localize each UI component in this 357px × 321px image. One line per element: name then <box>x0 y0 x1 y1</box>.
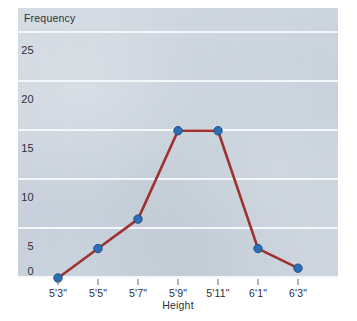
x-tick-label: 5'3" <box>49 287 67 299</box>
series-markers <box>54 127 302 283</box>
x-axis-title: Height <box>162 299 194 311</box>
x-tick-label: 5'11" <box>206 287 229 299</box>
x-tick-mark <box>98 279 99 285</box>
x-tick-mark <box>298 279 299 285</box>
x-tick-label: 5'5" <box>89 287 107 299</box>
x-tick-mark <box>138 279 139 285</box>
line-chart: Frequency 25 20 15 10 5 0 5'3"5'5"5'7"5'… <box>0 0 357 321</box>
x-tick-label: 6'3" <box>289 287 307 299</box>
data-point <box>94 244 102 252</box>
data-point <box>134 215 142 223</box>
x-tick-mark <box>58 279 59 285</box>
data-point <box>254 244 262 252</box>
series-line-frequency <box>58 131 298 278</box>
data-point <box>174 127 182 135</box>
x-tick-label: 5'7" <box>129 287 147 299</box>
x-tick-mark <box>258 279 259 285</box>
x-tick-label: 6'1" <box>249 287 267 299</box>
data-point <box>214 127 222 135</box>
data-series-layer <box>18 8 338 278</box>
x-tick-mark <box>218 279 219 285</box>
data-point <box>294 264 302 272</box>
x-tick-mark <box>178 279 179 285</box>
x-tick-label: 5'9" <box>169 287 187 299</box>
